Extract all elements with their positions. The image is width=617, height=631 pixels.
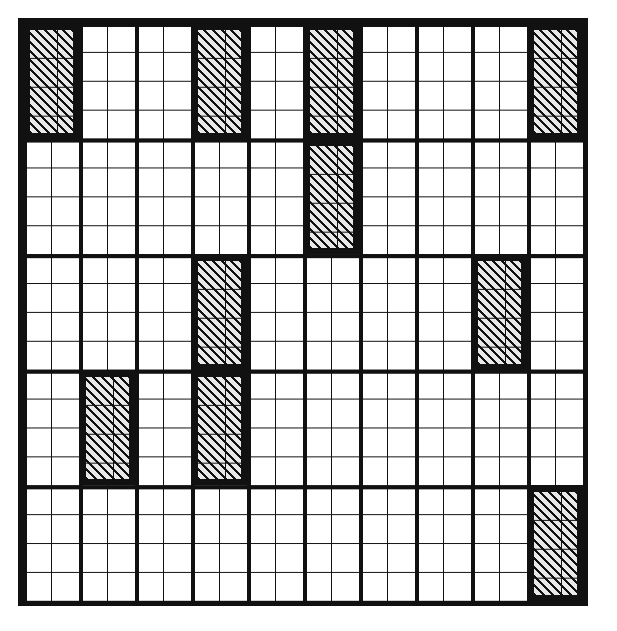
block-r2-c8 [471, 254, 527, 370]
figure-title: Hatched block occupancy grid [0, 0, 1, 1]
block-inner-gridlines [197, 29, 241, 133]
block-r3-c1 [79, 370, 135, 486]
figure-page: Hatched block occupancy grid Square latt… [0, 0, 617, 631]
block-inner-gridlines [309, 29, 353, 133]
block-r0-c5 [303, 23, 359, 139]
block-grid-figure [23, 23, 583, 601]
block-r3-c3 [191, 370, 247, 486]
block-inner-gridlines [309, 145, 353, 249]
block-r4-c9 [527, 485, 583, 601]
block-inner-gridlines [29, 29, 73, 133]
block-r1-c5 [303, 139, 359, 255]
block-inner-gridlines [85, 376, 129, 480]
block-inner-gridlines [197, 376, 241, 480]
block-r0-c3 [191, 23, 247, 139]
figure-description: Square lattice chart with thick-outlined… [0, 0, 1, 1]
block-inner-gridlines [477, 260, 521, 364]
block-inner-gridlines [533, 29, 577, 133]
block-r0-c9 [527, 23, 583, 139]
block-r2-c3 [191, 254, 247, 370]
block-r0-c0 [23, 23, 79, 139]
block-inner-gridlines [197, 260, 241, 364]
block-inner-gridlines [533, 491, 577, 595]
